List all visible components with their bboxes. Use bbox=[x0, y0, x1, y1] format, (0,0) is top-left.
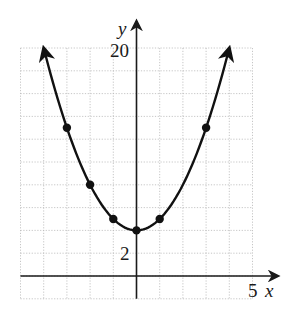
parabola-chart: y 20 2 5 x bbox=[0, 0, 297, 309]
data-point bbox=[132, 226, 140, 234]
data-point bbox=[63, 124, 71, 132]
y-axis-label: y bbox=[116, 18, 127, 39]
data-point bbox=[156, 215, 164, 223]
x-tick-label-5: 5 bbox=[248, 280, 258, 301]
y-tick-label-20: 20 bbox=[110, 40, 129, 61]
data-point bbox=[202, 124, 210, 132]
y-tick-label-2: 2 bbox=[120, 243, 130, 264]
x-axis-label: x bbox=[264, 280, 274, 301]
data-point bbox=[109, 215, 117, 223]
data-point bbox=[86, 181, 94, 189]
